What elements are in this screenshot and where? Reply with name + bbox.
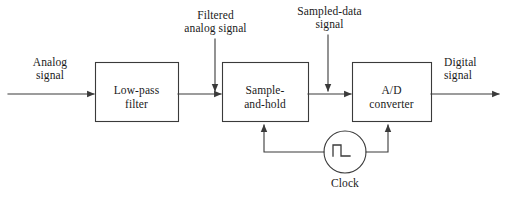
block-label-low-pass-filter: Low-pass filter (95, 84, 178, 111)
block-label-sample-and-hold: Sample- and-hold (222, 84, 308, 111)
diagram-canvas: Analog signal Filtered analog signal Sam… (0, 0, 507, 205)
label-analog-signal: Analog signal (14, 56, 86, 82)
label-clock: Clock (316, 177, 374, 190)
square-wave-icon (333, 145, 350, 156)
wire-clock-to-sample (264, 125, 324, 152)
label-sampled-data-signal: Sampled-data signal (277, 5, 382, 31)
block-label-ad-converter: A/D converter (352, 84, 431, 111)
label-filtered-analog-signal: Filtered analog signal (163, 9, 268, 35)
wire-clock-to-adc (366, 125, 388, 152)
clock-circle (324, 131, 366, 173)
label-digital-signal: Digital signal (444, 56, 506, 82)
